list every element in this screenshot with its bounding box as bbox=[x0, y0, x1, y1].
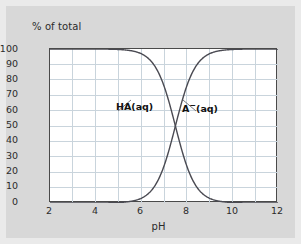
annotation-ha: HA(aq) bbox=[116, 101, 153, 112]
y-tick-label: 80 bbox=[0, 74, 18, 84]
x-tick-label: 10 bbox=[219, 206, 245, 216]
x-tick-label: 2 bbox=[36, 206, 62, 216]
figure-inner: % of total 100 90 80 70 60 50 40 30 20 1… bbox=[6, 6, 295, 238]
y-tick-label: 50 bbox=[0, 120, 18, 130]
y-tick-label: 30 bbox=[0, 151, 18, 161]
x-tick-label: 8 bbox=[173, 206, 199, 216]
y-tick-label: 60 bbox=[0, 105, 18, 115]
y-axis-label: % of total bbox=[32, 21, 81, 32]
annotation-a-state: (aq) bbox=[196, 103, 218, 114]
y-tick-label: 90 bbox=[0, 59, 18, 69]
y-tick-label: 100 bbox=[0, 44, 18, 54]
x-tick-label: 4 bbox=[82, 206, 108, 216]
figure-container: % of total 100 90 80 70 60 50 40 30 20 1… bbox=[0, 0, 301, 244]
annotation-a-minus: A−(aq) bbox=[182, 101, 218, 114]
y-tick-label: 40 bbox=[0, 135, 18, 145]
y-tick-label: 70 bbox=[0, 89, 18, 99]
x-tick-label: 12 bbox=[264, 206, 290, 216]
y-tick-label: 10 bbox=[0, 181, 18, 191]
plot-area bbox=[49, 48, 277, 202]
chart-svg bbox=[50, 49, 278, 203]
x-axis-label-text: pH bbox=[152, 221, 166, 232]
x-tick-label: 6 bbox=[127, 206, 153, 216]
x-axis-label: pH bbox=[6, 221, 295, 232]
y-tick-label: 20 bbox=[0, 166, 18, 176]
y-tick-label: 0 bbox=[0, 197, 18, 207]
